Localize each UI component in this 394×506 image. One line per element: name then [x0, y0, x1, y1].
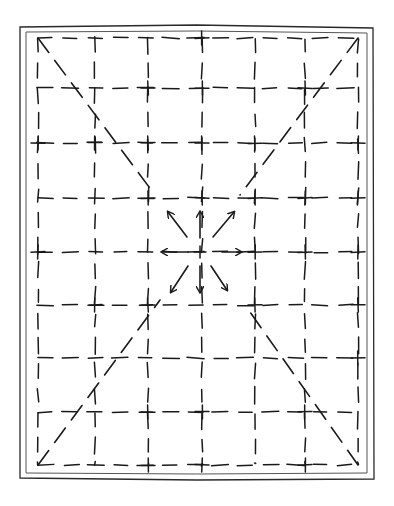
grid-dash-horizontal: [312, 38, 328, 39]
grid-dash-horizontal: [112, 357, 128, 358]
diagonal-dash-top-left-to-center: [55, 60, 66, 74]
grid-dash-vertical: [304, 262, 305, 280]
diagonal-dash-top-right-to-center: [263, 150, 274, 164]
grid-dash-vertical: [95, 188, 96, 203]
grid-dash-horizontal: [212, 465, 229, 466]
grid-dash-horizontal: [38, 412, 52, 413]
grid-dash-horizontal: [64, 465, 79, 466]
grid-dash-vertical: [255, 114, 256, 126]
grid-dash-vertical: [94, 437, 95, 454]
grid-dash-vertical: [94, 362, 95, 377]
grid-dash-horizontal: [113, 88, 128, 89]
grid-dash-horizontal: [312, 197, 327, 198]
grid-dash-horizontal: [312, 142, 327, 143]
grid-dash-vertical: [95, 214, 96, 228]
diagonal-dash-bottom-left-to-center: [121, 338, 132, 352]
diagonal-dash-bottom-left-to-center: [55, 428, 66, 442]
diagonal-dash-bottom-left-to-center: [38, 451, 49, 465]
grid-dash-vertical: [358, 162, 359, 179]
grid-cross: [202, 458, 203, 472]
grid-dash-horizontal: [88, 357, 103, 358]
grid-dash-horizontal: [312, 305, 328, 306]
grid-dash-horizontal: [288, 357, 303, 358]
diagonal-dash-bottom-left-to-center: [88, 383, 99, 397]
grid-cross: [148, 81, 149, 95]
grid-dash-horizontal: [162, 37, 179, 38]
grid-dash-horizontal: [263, 304, 278, 305]
grid-dash-horizontal: [63, 38, 77, 39]
grid-dash-vertical: [95, 314, 96, 326]
grid-dash-vertical: [357, 214, 358, 227]
grid-dash-horizontal: [288, 38, 302, 39]
grid-dash-vertical: [148, 164, 149, 177]
grid-dash-horizontal: [213, 87, 227, 88]
grid-dash-horizontal: [213, 198, 228, 199]
grid-dash-vertical: [37, 389, 38, 402]
grid-dash-horizontal: [62, 252, 78, 253]
grid-dash-vertical: [304, 63, 305, 78]
grid-dash-vertical: [202, 313, 203, 328]
grid-dash-horizontal: [262, 198, 278, 199]
diagonal-dash-top-right-to-center: [280, 128, 291, 142]
grid-dash-horizontal: [337, 88, 354, 89]
diagonal-dash-bottom-right-to-center: [348, 450, 358, 465]
grid-dash-horizontal: [262, 88, 276, 89]
diagonal-dash-top-right-to-center: [297, 105, 308, 119]
diagram-canvas: [0, 0, 394, 506]
grid-dash-horizontal: [38, 198, 53, 199]
diagonal-dash-top-left-to-center: [105, 128, 116, 142]
grid-dash-vertical: [357, 313, 358, 328]
grid-dash-vertical: [147, 363, 148, 378]
grid-cross: [358, 298, 359, 312]
grid-dash-vertical: [254, 213, 255, 228]
grid-dash-vertical: [202, 287, 203, 303]
grid-dash-vertical: [38, 262, 39, 278]
grid-dash-vertical: [304, 138, 305, 152]
grid-dash-vertical: [201, 164, 202, 179]
grid-dash-vertical: [95, 114, 96, 128]
diagonal-dash-bottom-left-to-center: [105, 360, 116, 374]
grid-dash-vertical: [38, 189, 39, 202]
grid-dash-vertical: [305, 339, 306, 352]
grid-dash-horizontal: [114, 465, 128, 466]
diagonal-dash-bottom-left-to-center: [138, 315, 149, 329]
diagonal-dash-bottom-right-to-center: [331, 427, 341, 442]
diagonal-dash-top-right-to-center: [314, 83, 325, 97]
grid-dash-vertical: [305, 314, 306, 329]
grid-dash-horizontal: [262, 411, 279, 412]
diagonal-dash-bottom-right-to-center: [283, 359, 293, 374]
grid-dash-vertical: [358, 387, 359, 402]
arrow-down-right-icon: [211, 266, 227, 290]
grid-dash-horizontal: [263, 358, 277, 359]
grid-dash-vertical: [94, 389, 95, 404]
diagonal-dash-bottom-left-to-center: [71, 405, 82, 419]
grid-dash-horizontal: [113, 198, 129, 199]
grid-dash-horizontal: [237, 38, 253, 39]
grid-dash-horizontal: [63, 198, 77, 199]
grid-cross: [148, 136, 149, 150]
grid-dash-vertical: [148, 388, 149, 402]
grid-dash-vertical: [255, 314, 256, 329]
sketch-diagram: [0, 0, 394, 506]
grid-dash-vertical: [95, 37, 96, 52]
diagonal-dash-top-left-to-center: [71, 83, 82, 97]
grid-cross: [148, 298, 149, 312]
arrow-up-left-icon: [168, 212, 187, 237]
grid-dash-vertical: [254, 363, 255, 378]
grid-dash-vertical: [305, 438, 306, 452]
grid-dash-vertical: [148, 339, 149, 353]
grid-cross: [38, 245, 39, 259]
grid-dash-vertical: [201, 362, 202, 377]
grid-cross: [358, 191, 359, 205]
arrow-down-left-icon: [171, 266, 188, 292]
arrow-up-right-icon: [213, 212, 234, 237]
grid-dash-vertical: [201, 239, 202, 253]
grid-dash-vertical: [254, 62, 255, 79]
diagonal-dash-top-left-to-center: [88, 105, 99, 119]
diagonal-dash-top-left-to-center: [38, 38, 49, 52]
grid-dash-vertical: [357, 39, 358, 53]
grid-dash-horizontal: [263, 38, 277, 39]
grid-dash-horizontal: [187, 357, 204, 358]
grid-dash-vertical: [255, 463, 256, 464]
diagonal-dash-top-right-to-center: [246, 172, 257, 186]
